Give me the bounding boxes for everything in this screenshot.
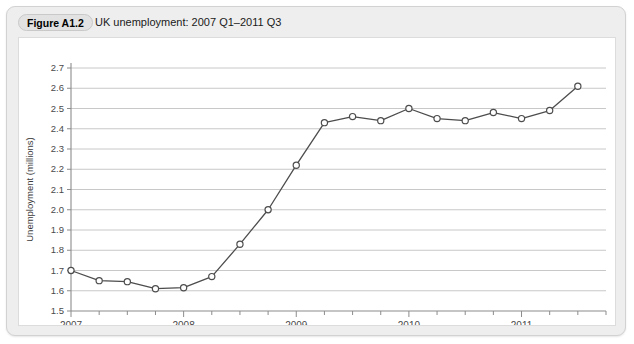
chart-plot-area: 1.51.61.71.81.92.02.12.22.32.42.52.62.7 …: [18, 37, 616, 326]
svg-text:1.6: 1.6: [51, 285, 64, 296]
svg-text:2.1: 2.1: [51, 184, 64, 195]
svg-text:2011: 2011: [511, 320, 533, 325]
svg-text:2.2: 2.2: [51, 163, 64, 174]
y-axis-title: Unemployment (millions): [24, 137, 35, 242]
data-series: [68, 83, 581, 292]
svg-text:2.4: 2.4: [51, 123, 64, 134]
svg-text:1.5: 1.5: [51, 305, 64, 316]
svg-text:1.8: 1.8: [51, 244, 64, 255]
svg-text:2.6: 2.6: [51, 82, 64, 93]
svg-text:2008: 2008: [173, 320, 196, 325]
svg-text:2.7: 2.7: [51, 62, 64, 73]
svg-text:1.7: 1.7: [51, 265, 64, 276]
figure-number-badge: Figure A1.2: [18, 14, 93, 31]
figure-caption: UK unemployment: 2007 Q1–2011 Q3: [95, 14, 281, 31]
x-axis: 20072008200920102011: [60, 311, 606, 325]
figure-panel: Figure A1.2 UK unemployment: 2007 Q1–201…: [6, 6, 626, 336]
svg-text:Unemployment (millions): Unemployment (millions): [24, 137, 35, 242]
gridlines: [71, 68, 606, 291]
svg-text:2009: 2009: [285, 320, 308, 325]
unemployment-line-chart: 1.51.61.71.81.92.02.12.22.32.42.52.62.7 …: [19, 38, 615, 325]
svg-text:2010: 2010: [398, 320, 421, 325]
svg-text:2.3: 2.3: [51, 143, 64, 154]
svg-text:2.0: 2.0: [51, 204, 64, 215]
svg-text:2007: 2007: [60, 320, 83, 325]
y-axis: 1.51.61.71.81.92.02.12.22.32.42.52.62.7: [51, 62, 71, 316]
svg-text:2.5: 2.5: [51, 103, 64, 114]
svg-text:1.9: 1.9: [51, 224, 64, 235]
figure-header: Figure A1.2 UK unemployment: 2007 Q1–201…: [7, 7, 625, 37]
